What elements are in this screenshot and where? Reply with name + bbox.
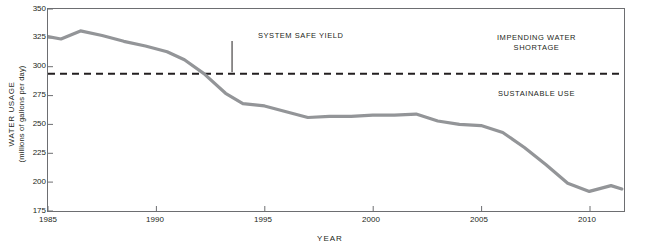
y-tick-300: 300 <box>24 61 46 70</box>
water-usage-chart: WATER USAGE (millions of gallons per day… <box>0 0 649 252</box>
water-usage-line <box>48 31 622 191</box>
x-tick-1990: 1990 <box>138 215 172 224</box>
y-tick-200: 200 <box>24 177 46 186</box>
annotation-impending-line1: IMPENDING WATER <box>497 33 576 42</box>
annotation-system-safe-yield: SYSTEM SAFE YIELD <box>258 31 368 41</box>
x-axis-title: YEAR <box>300 234 360 244</box>
y-tick-275: 275 <box>24 90 46 99</box>
y-tick-350: 350 <box>24 4 46 13</box>
y-tick-225: 225 <box>24 148 46 157</box>
x-tick-2010: 2010 <box>570 215 604 224</box>
y-axis-title: WATER USAGE (millions of gallons per day… <box>7 51 27 177</box>
x-tick-1995: 1995 <box>246 215 280 224</box>
x-tick-2005: 2005 <box>462 215 496 224</box>
y-tick-250: 250 <box>24 119 46 128</box>
y-tick-175: 175 <box>24 206 46 215</box>
annotation-sustainable-use: SUSTAINABLE USE <box>489 89 584 99</box>
y-axis-title-line2: (millions of gallons per day) <box>17 51 27 177</box>
x-tick-1985: 1985 <box>31 215 65 224</box>
annotation-impending-water-shortage: IMPENDING WATER SHORTAGE <box>489 33 584 53</box>
y-tick-325: 325 <box>24 32 46 41</box>
y-axis-title-line1: WATER USAGE <box>7 51 17 177</box>
x-tick-2000: 2000 <box>354 215 388 224</box>
annotation-impending-line2: SHORTAGE <box>514 43 560 52</box>
